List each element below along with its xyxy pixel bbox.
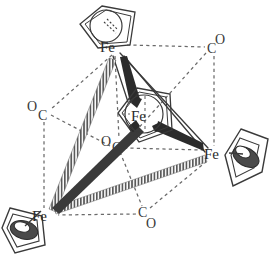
label-c-left: C	[38, 108, 47, 123]
cyclopentadienyl-ring-right	[225, 129, 268, 186]
label-fe-bottomleft: Fe	[32, 208, 47, 224]
label-o-topright: O	[215, 32, 225, 47]
label-o-bottom: O	[146, 216, 156, 231]
edge-c-center-to-fe-right	[124, 148, 204, 150]
label-fe-right: Fe	[204, 146, 219, 162]
label-o-left: O	[27, 99, 37, 114]
molecule-svg: Fe Fe Fe Fe O C O C O C C O	[0, 0, 272, 264]
cp-top-aromatic-circle	[90, 10, 122, 42]
edge-fe-top-to-c-topright	[127, 45, 205, 47]
label-c-center: C	[112, 140, 121, 155]
structure-diagram-canvas: Fe Fe Fe Fe O C O C O C C O	[0, 0, 272, 264]
label-o-center: O	[101, 134, 111, 149]
label-c-topright: C	[207, 41, 216, 56]
cp-top-hash-marks	[104, 19, 118, 33]
label-fe-center: Fe	[131, 108, 146, 124]
label-fe-top: Fe	[100, 39, 115, 55]
